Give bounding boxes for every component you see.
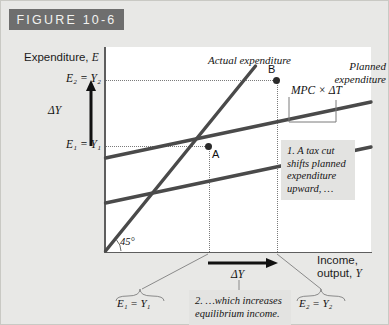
point-b-label: B [268, 63, 275, 75]
brace-label-e1: E₁ = Y₁ [117, 297, 150, 309]
point-b-marker [273, 77, 280, 84]
planned-expenditure-label-line2: expenditure [334, 73, 386, 85]
point-a-marker [205, 143, 212, 150]
y-axis-title: Expenditure, E [24, 51, 99, 63]
delta-y-vertical-arrow-icon [84, 80, 98, 146]
delta-y-vertical-label: ΔY [48, 104, 61, 116]
delta-y-horizontal-label: ΔY [231, 268, 244, 280]
x-axis-title-line1: Income, [317, 254, 358, 266]
x-axis-title: Income, output, Y [317, 254, 362, 280]
x-axis-line [104, 252, 372, 254]
y-axis-line [104, 47, 106, 253]
e2-leader-line [277, 254, 321, 289]
note-box-equilibrium-income: 2. …which increases equilibrium income. [189, 290, 291, 325]
note-box-tax-cut: 1. A tax cut shifts planned expenditure … [281, 140, 355, 200]
forty-five-degree-label: 45° [120, 236, 135, 247]
dotted-guide-e1-horizontal [105, 146, 209, 147]
y-axis-title-symbol: E [92, 51, 99, 63]
x-axis-title-line2-symbol: Y [355, 267, 361, 279]
dotted-guide-y1-vertical [209, 146, 210, 252]
dotted-guide-y2-vertical [277, 80, 278, 252]
x-axis-title-line2-prefix: output, [317, 267, 355, 279]
e1-leader-line [142, 254, 208, 289]
point-a-label: A [212, 148, 219, 160]
planned-expenditure-label: Planned expenditure [322, 60, 386, 85]
figure-title-bar: FIGURE 10-6 [9, 9, 124, 30]
dotted-guide-e2-horizontal [105, 80, 277, 81]
mpc-times-delta-t-label: MPC × ΔT [291, 84, 342, 96]
brace-label-e2: E₂ = Y₂ [299, 297, 332, 309]
figure-title-text: FIGURE 10-6 [17, 13, 117, 27]
figure-container: FIGURE 10-6 Actual expenditure Planned e… [0, 0, 389, 325]
planned-expenditure-label-line1: Planned [349, 60, 386, 72]
actual-expenditure-label: Actual expenditure [208, 54, 291, 67]
y-axis-title-prefix: Expenditure, [24, 51, 92, 63]
